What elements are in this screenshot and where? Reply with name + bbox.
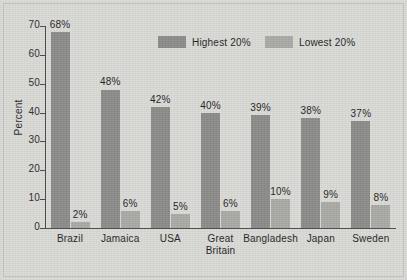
x-category-label-line: Britain — [189, 245, 253, 257]
bar-value-label: 40% — [191, 100, 231, 111]
y-tick-mark — [40, 170, 46, 171]
y-tick-label: 70 — [0, 19, 40, 30]
bar — [201, 113, 220, 228]
chart-legend: Highest 20%Lowest 20% — [158, 36, 355, 48]
y-tick-label: 20 — [0, 163, 40, 174]
bar — [371, 205, 390, 228]
y-tick-mark — [40, 141, 46, 142]
y-tick-label: 10 — [0, 192, 40, 203]
bar-value-label: 48% — [90, 76, 130, 87]
y-tick-mark — [40, 228, 46, 229]
bar — [351, 121, 370, 228]
bar-value-label: 68% — [40, 19, 80, 30]
bar-value-label: 38% — [291, 105, 331, 116]
bar-value-label: 8% — [361, 192, 401, 203]
bar-value-label: 10% — [261, 186, 301, 197]
bar-value-label: 2% — [60, 209, 100, 220]
legend-label: Highest 20% — [192, 37, 251, 48]
bar-value-label: 39% — [241, 102, 281, 113]
bar-value-label: 6% — [110, 198, 150, 209]
bar — [121, 211, 140, 228]
bar-value-label: 5% — [160, 201, 200, 212]
bar — [171, 214, 190, 228]
bar — [51, 32, 70, 228]
bar — [321, 202, 340, 228]
x-axis-line — [45, 228, 396, 229]
y-tick-label: 30 — [0, 134, 40, 145]
y-tick-label: 60 — [0, 48, 40, 59]
x-category-label-line: Sweden — [339, 233, 403, 245]
legend-item: Lowest 20% — [265, 36, 355, 48]
chart-figure: Percent 010203040506070 68%2%48%6%42%5%4… — [0, 0, 407, 280]
x-category-label: Sweden — [339, 233, 403, 245]
bar — [71, 222, 90, 228]
legend-swatch — [265, 36, 293, 48]
legend-label: Lowest 20% — [299, 37, 355, 48]
bar — [301, 118, 320, 228]
bar — [271, 199, 290, 228]
bar-value-label: 37% — [341, 108, 381, 119]
y-tick-mark — [40, 55, 46, 56]
y-tick-label: 40 — [0, 106, 40, 117]
y-tick-mark — [40, 199, 46, 200]
y-tick-label: 0 — [0, 221, 40, 232]
bar-value-label: 6% — [211, 198, 251, 209]
bar-value-label: 42% — [140, 94, 180, 105]
bar-value-label: 9% — [311, 189, 351, 200]
bar — [251, 115, 270, 228]
legend-item: Highest 20% — [158, 36, 251, 48]
y-tick-mark — [40, 84, 46, 85]
y-tick-mark — [40, 113, 46, 114]
legend-swatch — [158, 36, 186, 48]
y-tick-label: 50 — [0, 77, 40, 88]
bar — [221, 211, 240, 228]
